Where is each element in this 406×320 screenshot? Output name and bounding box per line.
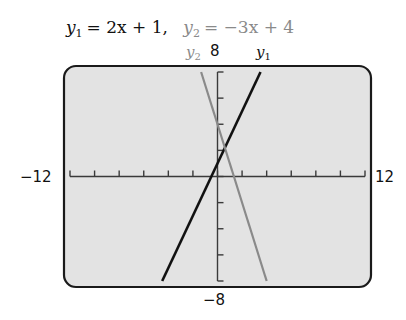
xmax-label: 12 bbox=[375, 168, 394, 186]
ymin-label: −8 bbox=[203, 291, 225, 309]
chart-title: y1= 2x + 1, y2= −3x + 4 bbox=[65, 17, 294, 40]
ymax-label: 8 bbox=[210, 42, 220, 60]
y2-equation: = −3x + 4 bbox=[204, 17, 294, 37]
graphing-calculator-chart: y1= 2x + 1, y2= −3x + 4 y2 8 y1 −12 12 −… bbox=[0, 0, 406, 320]
xmin-label: −12 bbox=[20, 168, 52, 186]
y1-equation: = 2x + 1, bbox=[87, 17, 168, 37]
y2-series-label: y2 bbox=[185, 43, 201, 62]
y1-series-label: y1 bbox=[255, 43, 271, 62]
